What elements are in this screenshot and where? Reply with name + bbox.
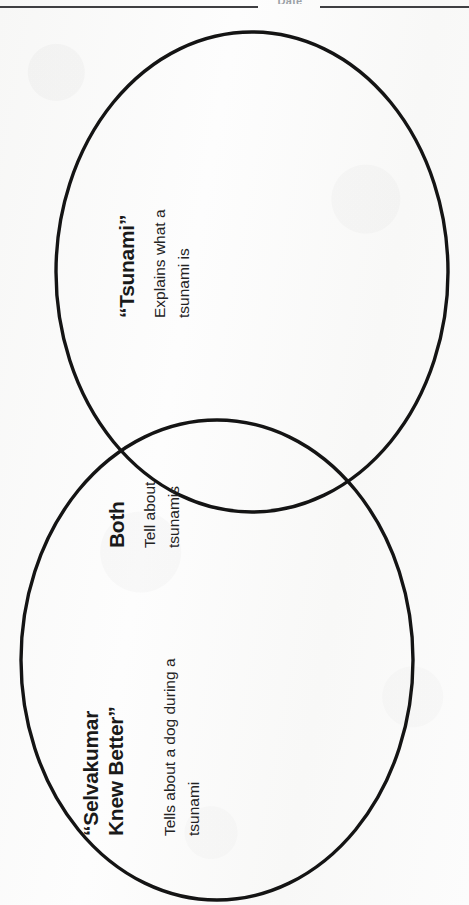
region-body-tsunami: Explains what a tsunami is	[148, 209, 196, 318]
region-title-tsunami: “Tsunami”	[114, 215, 139, 318]
region-title-selvakumar-line-1: “Selvakumar	[78, 707, 103, 836]
region-body-both-line-1: Tell about	[138, 482, 162, 548]
region-body-both: Tell about tsunamis	[138, 482, 186, 548]
region-body-tsunami-line-1: Explains what a	[148, 209, 172, 318]
region-title-selvakumar-line-2: Knew Better”	[103, 707, 128, 836]
worksheet-page: Date “Tsunami” Explains what a tsunami i…	[0, 0, 469, 905]
region-body-selvakumar: Tells about a dog during a tsunami	[158, 658, 206, 836]
region-body-selvakumar-line-1: Tells about a dog during a	[158, 658, 182, 836]
venn-diagram	[0, 0, 469, 905]
region-body-both-line-2: tsunamis	[162, 482, 186, 548]
region-title-both: Both	[104, 501, 129, 548]
region-body-tsunami-line-2: tsunami is	[172, 209, 196, 318]
region-body-selvakumar-line-2: tsunami	[182, 658, 206, 836]
region-title-selvakumar: “Selvakumar Knew Better”	[78, 707, 128, 836]
